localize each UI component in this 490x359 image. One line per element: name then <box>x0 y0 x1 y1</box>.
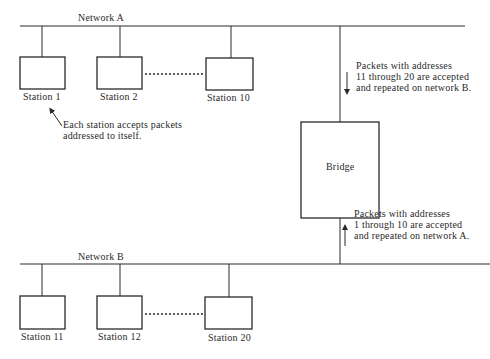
station-note-arrow-icon <box>51 110 62 126</box>
a-to-b-line-3: and repeated on network B. <box>356 82 471 93</box>
station-10-label: Station 10 <box>207 92 250 103</box>
station-note-line-1: Each station accepts packets <box>63 119 182 130</box>
b-to-a-line-1: Packets with addresses <box>354 208 450 219</box>
station-note-line-2: addressed to itself. <box>63 130 142 141</box>
network-a-label: Network A <box>78 12 124 23</box>
station-1-box <box>20 57 65 89</box>
network-b-label: Network B <box>78 251 124 262</box>
station-20-label: Station 20 <box>208 332 251 343</box>
station-20-box <box>205 297 252 329</box>
bridge-label: Bridge <box>326 161 354 172</box>
b-to-a-line-3: and repeated on network A. <box>354 230 469 241</box>
station-2-label: Station 2 <box>100 91 138 102</box>
station-12-label: Station 12 <box>98 331 141 342</box>
station-12-box <box>97 296 142 329</box>
station-10-box <box>206 58 253 90</box>
a-to-b-line-2: 11 through 20 are accepted <box>356 71 469 82</box>
bridge-diagram <box>0 0 490 359</box>
a-to-b-line-1: Packets with addresses <box>356 60 452 71</box>
station-11-label: Station 11 <box>21 331 63 342</box>
station-2-box <box>97 57 142 89</box>
station-11-box <box>20 296 65 329</box>
b-to-a-line-2: 1 through 10 are accepted <box>354 219 462 230</box>
station-1-label: Station 1 <box>23 91 61 102</box>
